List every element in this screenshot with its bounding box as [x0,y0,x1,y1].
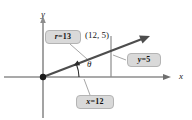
callout-opposite: y = 5 [127,53,161,67]
y-axis-label: y [41,10,45,19]
theta-label: θ [87,60,91,69]
origin-point [40,74,46,80]
x-axis-label: x [179,72,183,81]
callout-adjacent: x = 12 [76,95,114,109]
callout-opposite-value: 5 [146,56,150,64]
callout-radius: r = 13 [45,30,81,44]
trig-triangle-figure: y x (12, 5) θ r = 13 y = 5 x = 12 [0,0,192,120]
callout-radius-value: 13 [63,33,71,41]
callout-adjacent-value: 12 [95,98,103,106]
leader-line-adjacent [84,79,90,95]
leader-line-radius [70,44,87,59]
leader-line-opposite [113,55,126,60]
angle-arc [77,65,80,78]
point-coordinate-label: (12, 5) [85,31,109,40]
x-axis-arrowhead [163,74,171,80]
